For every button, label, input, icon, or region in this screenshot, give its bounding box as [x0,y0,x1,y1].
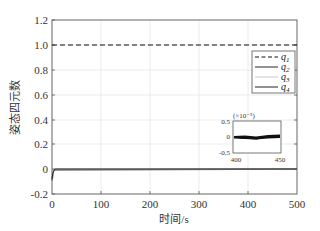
inset-x-tick: 400 [231,156,242,164]
series-q2 [52,169,297,181]
y-tick: 0.2 [34,138,48,150]
y-tick: 1.2 [34,14,48,26]
inset-scale-label: (×10⁻⁵) [233,112,255,120]
y-tick: 0.8 [34,64,48,76]
grid [52,20,297,194]
x-tick: 200 [142,198,159,210]
inset-x-tick: 450 [275,156,286,164]
x-tick: 0 [49,198,55,210]
x-tick: 400 [240,198,257,210]
y-tick: 0 [43,163,49,175]
y-tick: 0.4 [34,114,48,126]
plot-frame [52,20,297,194]
y-axis-label: 姿态四元数 [9,80,21,135]
y-tick: -0.2 [31,188,48,200]
x-tick: 100 [93,198,110,210]
legend: q1 q2 q3 q4 [252,51,295,94]
inset-y-tick: -0.5 [219,149,231,157]
x-tick-labels: 0 100 200 300 400 500 [49,198,306,210]
x-tick: 500 [289,198,306,210]
y-tick: 0.6 [34,89,48,101]
tick-marks [52,20,297,194]
inset-y-tick: 0 [227,133,231,141]
y-tick: 1.0 [34,39,48,51]
y-tick-labels: 1.2 1.0 0.8 0.6 0.4 0.2 0 -0.2 [31,14,49,200]
x-axis-label: 时间/s [159,213,188,225]
x-tick: 300 [191,198,208,210]
inset-y-tick: 0.5 [221,118,230,126]
chart-canvas: 1.2 1.0 0.8 0.6 0.4 0.2 0 -0.2 0 100 200… [0,0,320,231]
